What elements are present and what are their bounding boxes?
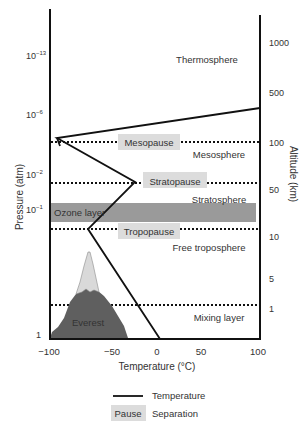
- svg-text:5: 5: [269, 274, 274, 284]
- legend: Temperature Pause Separation: [111, 390, 205, 421]
- label-stratopause: Stratopause: [149, 176, 200, 187]
- svg-text:10−1: 10−1: [26, 204, 44, 215]
- everest-snowcap: [76, 252, 99, 294]
- svg-text:100: 100: [269, 138, 284, 148]
- label-stratosphere: Stratosphere: [192, 194, 246, 205]
- svg-text:100: 100: [250, 346, 266, 357]
- bottom-axis-title: Temperature (°C): [119, 361, 196, 372]
- label-thermosphere: Thermosphere: [176, 54, 238, 65]
- label-mesopause: Mesopause: [124, 137, 173, 148]
- svg-text:10−6: 10−6: [26, 109, 44, 120]
- svg-text:−50: −50: [104, 346, 120, 357]
- svg-text:1000: 1000: [269, 38, 289, 48]
- right-axis-title: Altitude (km): [288, 146, 299, 202]
- label-mixing-layer: Mixing layer: [194, 312, 245, 323]
- legend-temperature-label: Temperature: [152, 390, 205, 401]
- legend-separation-label: Separation: [152, 408, 198, 419]
- svg-text:10: 10: [269, 232, 279, 242]
- svg-text:1: 1: [36, 330, 41, 340]
- svg-text:50: 50: [196, 346, 207, 357]
- everest-mountain: [50, 288, 128, 338]
- label-ozone-layer: Ozone layer: [54, 207, 105, 218]
- bottom-tick-labels: −100 −50 0 50 100: [38, 346, 266, 357]
- label-tropopause: Tropopause: [124, 226, 174, 237]
- svg-text:50: 50: [269, 185, 279, 195]
- svg-text:500: 500: [269, 88, 284, 98]
- left-axis-title: Pressure (atm): [14, 164, 25, 230]
- label-everest: Everest: [72, 317, 105, 328]
- svg-text:1: 1: [269, 304, 274, 314]
- atmosphere-diagram: Thermosphere Mesopause Mesosphere Strato…: [0, 0, 303, 430]
- label-mesosphere: Mesosphere: [193, 149, 245, 160]
- svg-text:0: 0: [154, 346, 159, 357]
- svg-text:10−2: 10−2: [26, 169, 44, 180]
- legend-pause-text: Pause: [115, 408, 142, 419]
- left-tick-labels: 10−13 10−6 10−2 10−1 1: [26, 50, 47, 340]
- label-free-troposphere: Free troposphere: [173, 242, 246, 253]
- svg-text:−100: −100: [38, 346, 59, 357]
- svg-text:10−13: 10−13: [26, 50, 47, 61]
- right-tick-labels: 1000 500 100 50 10 5 1: [269, 38, 289, 314]
